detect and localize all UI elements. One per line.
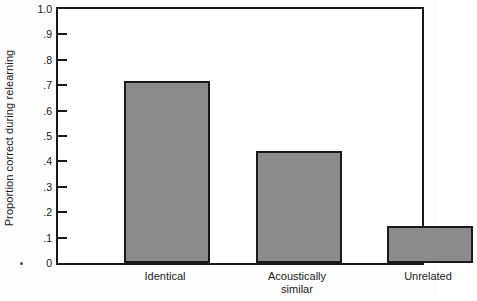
y-axis-tick-label: 0 <box>18 258 52 268</box>
bar <box>124 81 210 263</box>
y-axis-tick-label: .9 <box>18 29 52 39</box>
y-axis-tick-label: .4 <box>18 156 52 166</box>
x-axis-tick-labels: IdenticalAcousticallysimilarUnrelated <box>56 270 424 301</box>
x-axis-tick-label: Identical <box>95 270 235 283</box>
x-axis-tick-label-line: Identical <box>95 270 235 283</box>
zero-label-speck <box>20 262 23 265</box>
plot-area <box>56 7 424 265</box>
x-axis-tick-label: Acousticallysimilar <box>227 270 367 296</box>
y-axis-tick <box>58 110 67 112</box>
x-axis-tick-label-line: Acoustically <box>227 270 367 283</box>
x-axis-tick-label-line: Unrelated <box>358 270 477 283</box>
y-axis-tick-label: .3 <box>18 182 52 192</box>
y-axis-tick-label: .8 <box>18 55 52 65</box>
y-axis-tick <box>58 211 67 213</box>
y-axis-tick-label: .1 <box>18 233 52 243</box>
y-axis-tick <box>58 135 67 137</box>
y-axis-tick-labels: 0.1.2.3.4.5.6.7.8.91.0 <box>14 7 52 265</box>
x-axis-tick-label: Unrelated <box>358 270 477 283</box>
y-axis-tick <box>58 59 67 61</box>
y-axis-tick-label: .2 <box>18 207 52 217</box>
y-axis-tick-label: .6 <box>18 106 52 116</box>
y-axis-tick <box>58 160 67 162</box>
y-axis-tick-label: 1.0 <box>18 4 52 14</box>
y-axis-tick <box>58 186 67 188</box>
y-axis-tick <box>58 84 67 86</box>
bar <box>387 226 473 263</box>
plot-inner <box>58 9 422 263</box>
y-axis-tick-label: .7 <box>18 80 52 90</box>
bar <box>256 151 342 263</box>
x-axis-tick-label-line: similar <box>227 283 367 296</box>
y-axis-tick-label: .5 <box>18 131 52 141</box>
y-axis-tick <box>58 237 67 239</box>
y-axis-tick <box>58 33 67 35</box>
